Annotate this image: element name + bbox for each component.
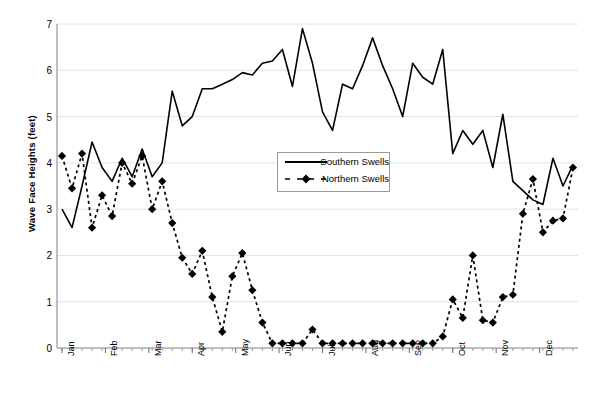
x-tick-label-feb: Feb [109, 340, 119, 356]
x-tick-label-dec: Dec [544, 340, 554, 356]
x-tick-label-mar: Mar [153, 341, 163, 357]
chart-legend: Southern Swells Northern Swells [277, 152, 390, 192]
plot-area [0, 0, 607, 397]
x-tick-label-jul: Jul [327, 344, 337, 356]
x-axis-ticks [62, 348, 573, 353]
x-tick-label-sep: Sep [413, 340, 423, 356]
legend-label-northern: Northern Swells [322, 173, 389, 184]
x-tick-label-apr: Apr [196, 342, 206, 356]
x-tick-label-jun: Jun [283, 341, 293, 356]
x-tick-label-oct: Oct [457, 342, 467, 356]
x-tick-label-aug: Aug [370, 340, 380, 356]
wave-height-chart: Wave Face Heights (feet) 01234567 JanFeb… [0, 0, 607, 397]
x-tick-label-may: May [240, 339, 250, 356]
legend-key-dashed-diamond [283, 173, 321, 185]
x-tick-label-jan: Jan [66, 341, 76, 356]
legend-item-northern: Northern Swells [278, 170, 389, 187]
x-tick-label-nov: Nov [500, 340, 510, 356]
legend-label-southern: Southern Swells [320, 156, 389, 167]
series-southern-swells [62, 29, 573, 228]
legend-item-southern: Southern Swells [278, 153, 389, 170]
legend-key-solid-line [283, 156, 319, 168]
